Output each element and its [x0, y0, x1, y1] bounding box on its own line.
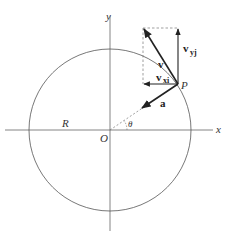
point-p-label: P: [180, 79, 188, 91]
svg-text:v: v: [183, 42, 189, 54]
svg-text:xi: xi: [163, 76, 170, 85]
angle-label: θ: [128, 119, 133, 129]
x-axis-label: x: [215, 123, 221, 135]
acceleration-label: a: [160, 97, 166, 109]
velocity-label: v: [158, 58, 164, 70]
svg-text:v: v: [156, 71, 162, 83]
y-axis-label: y: [105, 10, 111, 22]
circular-motion-diagram: y x O R θ P v a v xi v yj: [0, 0, 228, 231]
radius-label: R: [61, 117, 69, 129]
angle-arc: [124, 121, 127, 131]
velocity-y-label: v yj: [183, 42, 197, 57]
svg-text:yj: yj: [190, 48, 197, 57]
origin-label: O: [100, 132, 108, 144]
